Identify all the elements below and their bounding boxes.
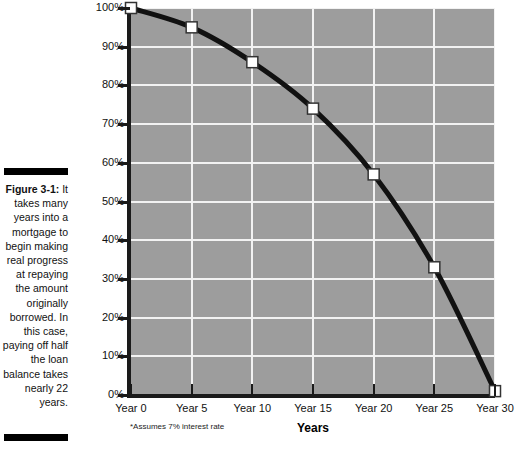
chart-footnote: *Assumes 7% interest rate [130,422,224,431]
y-axis-tick-mark [118,84,130,87]
x-axis-tick-mark [433,384,435,396]
x-axis-tick-mark [251,384,253,396]
figure-number-label: Figure 3-1: [6,183,60,195]
y-axis-tick-mark [118,162,130,165]
figure-caption-body: It takes many years into a mortgage to b… [3,183,68,408]
x-axis-tick-label: Year 15 [281,402,345,414]
x-axis-tick-mark [494,384,496,396]
x-axis-tick-mark [373,384,375,396]
caption-rule-bottom [4,434,68,441]
y-axis-tick-mark [118,355,130,358]
y-axis-tick-mark [118,317,130,320]
y-axis-tick-mark [118,239,130,242]
x-axis-tick-mark [130,384,132,396]
chart: Remaining balance in percent of original… [72,0,495,450]
x-axis-tick-label: Year 30 [463,402,519,414]
y-axis-tick-labels: 100%90%80%70%60%50%40%30%20%10%0% [86,0,124,450]
y-axis-tick-mark [118,46,130,49]
x-axis-tick-mark [191,384,193,396]
x-axis-tick-label: Year 10 [220,402,284,414]
series-line-remaining-balance [131,8,495,391]
x-axis-tick-label: Year 25 [402,402,466,414]
y-axis-tick-mark [118,7,130,10]
data-point-marker [186,22,197,33]
caption-rule-top [4,168,68,175]
figure-caption-block: Figure 3-1: It takes many years into a m… [0,0,72,450]
y-axis-tick-mark [118,123,130,126]
x-axis-tick-labels: Year 0Year 5Year 10Year 15Year 20Year 25… [72,402,495,418]
data-point-marker [368,169,379,180]
figure-caption-text: Figure 3-1: It takes many years into a m… [2,182,68,409]
y-axis-tick-mark [118,278,130,281]
y-axis-tick-mark [118,394,130,397]
data-point-marker [308,103,319,114]
data-series-balance [131,8,495,395]
x-axis-tick-mark [312,384,314,396]
x-axis-tick-label: Year 5 [160,402,224,414]
data-point-marker [247,57,258,68]
y-axis-tick-mark [118,201,130,204]
x-axis-tick-label: Year 20 [342,402,406,414]
data-point-marker [429,262,440,273]
x-axis-tick-label: Year 0 [99,402,163,414]
